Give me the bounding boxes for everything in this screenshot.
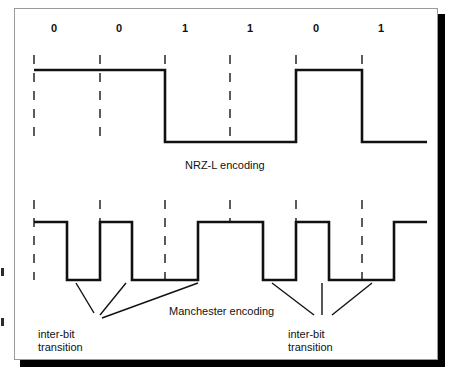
annotation-inter-bit-right-line2: transition bbox=[288, 341, 333, 354]
page-edge-mark-1 bbox=[1, 268, 4, 276]
leader-right-a bbox=[272, 283, 314, 315]
annotation-inter-bit-left-line1: inter-bit bbox=[38, 328, 83, 341]
leader-left-a bbox=[76, 283, 94, 313]
leader-right-c bbox=[332, 283, 372, 315]
frame-shadow-right bbox=[438, 14, 445, 367]
annotation-inter-bit-right: inter-bit transition bbox=[288, 328, 333, 354]
leader-lines-right bbox=[272, 283, 372, 315]
figure-root: 0 0 1 1 0 1 bbox=[0, 0, 459, 378]
caption-manchester: Manchester encoding bbox=[169, 305, 274, 317]
nrzl-grid-lines bbox=[34, 55, 362, 142]
page-edge-mark-2 bbox=[1, 318, 4, 326]
manchester-waveform bbox=[34, 222, 427, 280]
caption-nrzl: NRZ-L encoding bbox=[185, 159, 265, 171]
annotation-inter-bit-left: inter-bit transition bbox=[38, 328, 83, 354]
annotation-inter-bit-right-line1: inter-bit bbox=[288, 328, 333, 341]
frame-shadow-bottom bbox=[20, 360, 445, 367]
annotation-inter-bit-left-line2: transition bbox=[38, 341, 83, 354]
